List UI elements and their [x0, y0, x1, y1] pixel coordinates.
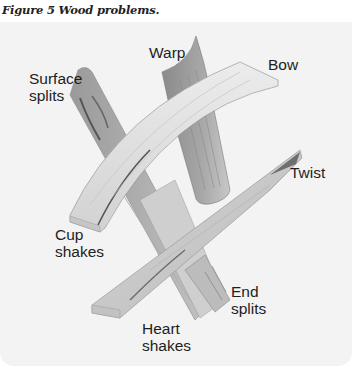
label-cup-shakes: Cup shakes	[55, 226, 104, 260]
label-twist: Twist	[290, 164, 325, 181]
label-bow: Bow	[268, 56, 298, 73]
label-surface-splits: Surface splits	[29, 70, 82, 104]
label-warp: Warp	[149, 44, 185, 61]
label-heart-shakes: Heart shakes	[142, 320, 191, 354]
label-end-splits: End splits	[231, 283, 266, 317]
